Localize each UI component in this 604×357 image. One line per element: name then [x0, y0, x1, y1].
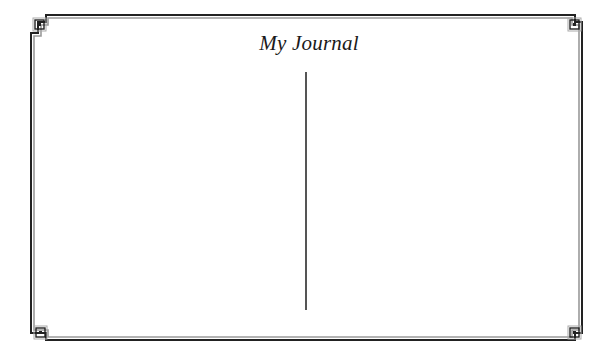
corner-ornament-bottom-left [34, 326, 47, 339]
journal-title: My Journal [0, 31, 604, 56]
corner-ornament-bottom-right [568, 326, 581, 339]
left-page[interactable] [40, 60, 295, 320]
right-page[interactable] [316, 60, 574, 320]
corner-ornament-top-right [568, 18, 581, 31]
corner-ornament-top-left [33, 18, 46, 31]
page-divider [305, 72, 307, 310]
